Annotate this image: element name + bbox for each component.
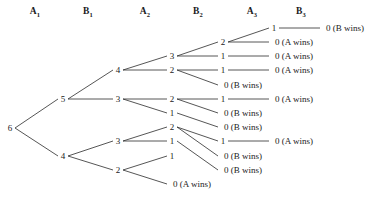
tree-leaf-node: 0 (B wins) [223,166,263,175]
tree-node: 1 [220,52,227,61]
tree-edge [177,127,218,141]
tree-edge [123,156,167,170]
tree-node: 2 [169,95,176,104]
tree-leaf-node: 0 (B wins) [223,109,263,118]
column-header-a1: A1 [30,6,41,18]
tree-leaf-node: 0 (A wins) [172,180,212,189]
tree-edge [177,127,218,156]
column-header-b1: B1 [83,6,93,18]
tree-edge [177,42,218,56]
tree-node: 1 [220,66,227,75]
tree-node: 3 [169,52,176,61]
tree-node: 2 [220,38,227,47]
tree-edge [228,28,269,42]
tree-edge [177,99,218,113]
column-header-a2: A2 [140,6,151,18]
tree-edge [123,56,167,70]
tree-edge [68,156,113,170]
tree-leaf-node: 0 (B wins) [223,152,263,161]
tree-node: 3 [115,95,122,104]
tree-edge [177,70,218,85]
tree-edge [177,113,218,127]
column-header-b2: B2 [193,6,203,18]
game-tree-diagram: A1B1A2B2A3B3 654433232212110 (A wins)211… [0,0,385,204]
tree-node: 4 [115,66,122,75]
tree-edge [15,99,58,128]
tree-node: 5 [60,95,67,104]
tree-edge [123,127,167,141]
tree-node: 3 [115,137,122,146]
tree-node: 1 [169,152,176,161]
tree-root-node: 6 [7,124,14,133]
tree-edge [123,170,167,184]
tree-edge [68,70,113,99]
column-header-a3: A3 [247,6,258,18]
tree-node: 2 [169,123,176,132]
tree-leaf-node: 0 (A wins) [274,52,314,61]
tree-leaf-node: 0 (A wins) [274,66,314,75]
column-header-b3: B3 [296,6,306,18]
tree-node: 1 [169,137,176,146]
tree-leaf-node: 0 (B wins) [325,24,365,33]
tree-leaf-node: 0 (A wins) [274,137,314,146]
tree-node: 2 [169,66,176,75]
tree-node: 1 [220,95,227,104]
tree-node: 4 [60,152,67,161]
tree-leaf-node: 0 (B wins) [223,123,263,132]
tree-node: 1 [271,24,278,33]
tree-node: 1 [220,137,227,146]
tree-node: 2 [115,166,122,175]
tree-edge [123,99,167,113]
tree-leaf-node: 0 (A wins) [274,38,314,47]
tree-edge [68,141,113,156]
tree-edge [15,128,58,156]
tree-leaf-node: 0 (A wins) [274,95,314,104]
tree-node: 1 [169,109,176,118]
tree-edge [177,141,218,170]
tree-leaf-node: 0 (B wins) [223,81,263,90]
